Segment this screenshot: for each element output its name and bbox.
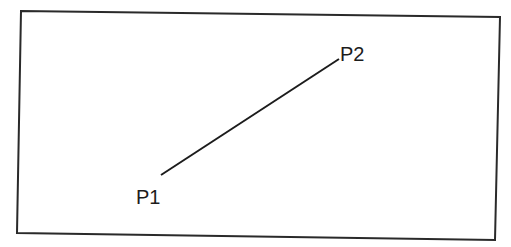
point-label-p2: P2: [340, 43, 364, 65]
line-segment-diagram: P1 P2: [0, 0, 511, 247]
point-label-p1: P1: [136, 186, 160, 208]
frame-border: [17, 11, 500, 240]
segment-p1-p2: [161, 59, 339, 175]
